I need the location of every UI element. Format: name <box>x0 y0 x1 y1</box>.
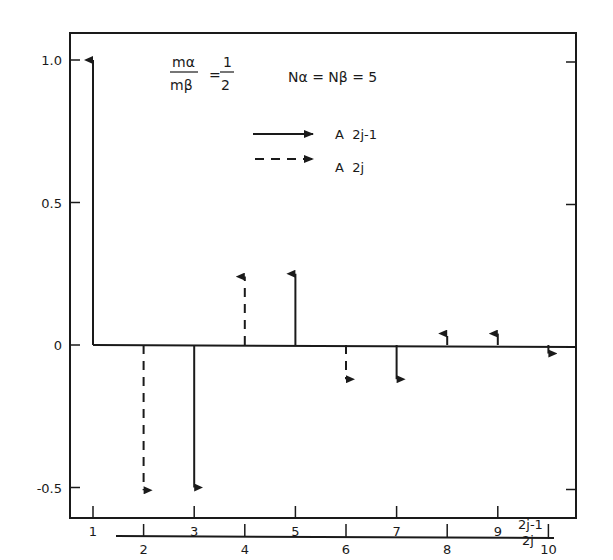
svg-text:mβ: mβ <box>170 77 193 93</box>
x-even-tick-label: 8 <box>443 542 451 557</box>
zero-line <box>93 345 575 347</box>
stems <box>93 60 548 490</box>
stem-chart: 1.00.50-0.5 13579 246810 mα mβ = 1 2 Nα … <box>0 0 613 560</box>
x-even-tick-label: 10 <box>540 542 557 557</box>
svg-text:=: = <box>209 67 221 83</box>
x-even-tick-label: 2 <box>139 542 147 557</box>
x-odd-tick-label: 1 <box>89 524 97 539</box>
legend-label-odd: A 2j-1 <box>335 127 377 142</box>
x-even-tick-label: 6 <box>342 542 350 557</box>
svg-text:1: 1 <box>223 54 232 70</box>
svg-text:2: 2 <box>221 77 230 93</box>
y-tick-label: 1.0 <box>41 53 62 68</box>
y-tick-label: 0 <box>54 338 62 353</box>
n-annotation: Nα = Nβ = 5 <box>288 69 377 85</box>
legend-label-even: A 2j <box>335 160 364 175</box>
y-axis-ticks: 1.00.50-0.5 <box>37 53 576 496</box>
y-tick-label: 0.5 <box>41 196 62 211</box>
plot-frame <box>70 33 576 518</box>
x-odd-axis-label: 2j-1 <box>518 517 543 532</box>
mass-ratio-annotation: mα mβ = 1 2 <box>170 54 234 93</box>
y-tick-label: -0.5 <box>37 481 62 496</box>
x-axis-even: 246810 <box>116 524 557 557</box>
x-even-axis-label: 2j <box>522 533 534 548</box>
svg-text:mα: mα <box>172 54 195 70</box>
x-axis-odd: 13579 <box>89 506 502 539</box>
legend: A 2j-1 A 2j <box>253 127 377 175</box>
x-even-tick-label: 4 <box>241 542 249 557</box>
